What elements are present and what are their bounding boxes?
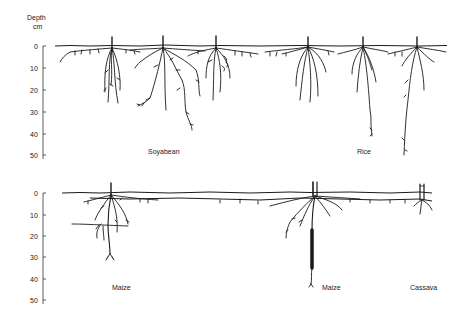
label-maize-right: Maize <box>322 284 341 291</box>
label-rice: Rice <box>357 148 371 155</box>
label-maize-left: Maize <box>112 284 131 291</box>
top-soil-surface <box>55 45 447 46</box>
root-depth-diagram: Depth cm 0 10 20 30 40 50 0 10 20 <box>0 0 468 323</box>
top-depth-axis: Depth cm 0 10 20 30 40 50 <box>27 14 46 159</box>
axis-title-unit: cm <box>33 23 43 30</box>
rice-plant-1 <box>265 37 334 102</box>
soyabean-plant-2 <box>130 36 205 130</box>
tick-20: 20 <box>30 87 38 94</box>
tick-30: 30 <box>30 109 38 116</box>
soyabean-plant-1 <box>60 37 140 103</box>
tick-40: 40 <box>30 276 38 283</box>
tick-10: 10 <box>30 212 38 219</box>
label-cassava: Cassava <box>410 284 437 291</box>
maize-left-plant <box>72 183 158 260</box>
tick-0: 0 <box>34 190 38 197</box>
rice-plant-3 <box>388 37 446 155</box>
bottom-depth-axis: 0 10 20 30 40 50 <box>30 190 46 304</box>
tick-40: 40 <box>30 131 38 138</box>
tick-10: 10 <box>30 65 38 72</box>
label-soyabean: Soyabean <box>148 148 180 156</box>
tick-20: 20 <box>30 233 38 240</box>
axis-title-depth: Depth <box>27 14 46 22</box>
tick-0: 0 <box>34 43 38 50</box>
rice-plant-2 <box>338 37 388 136</box>
maize-right-plant <box>220 182 405 287</box>
tick-50: 50 <box>30 152 38 159</box>
bottom-soil-surface <box>62 192 432 193</box>
tick-30: 30 <box>30 254 38 261</box>
tick-50: 50 <box>30 297 38 304</box>
